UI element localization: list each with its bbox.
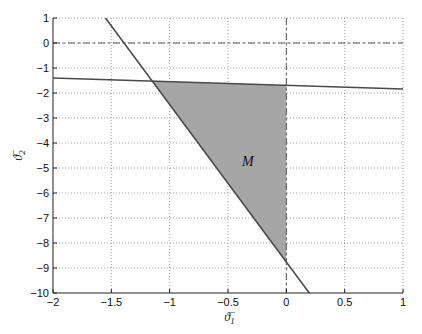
x-axis-label: ϑ1− [224, 307, 235, 326]
x-tick-label: 0 [283, 296, 289, 308]
y-axis-label: ϑ2− [8, 149, 27, 160]
y-tick-label: −1 [36, 62, 49, 74]
y-tick-label: 1 [43, 12, 49, 24]
y-tick-label: −7 [36, 212, 49, 224]
x-tick-label: −1 [163, 296, 176, 308]
y-tick-label: −2 [36, 87, 49, 99]
y-tick-label: −8 [36, 237, 49, 249]
y-tick-label: 0 [43, 37, 49, 49]
x-tick-label: 0.5 [337, 296, 352, 308]
y-tick-label: −4 [36, 137, 49, 149]
x-axis-ticks: −2−1.5−1−0.500.51 [47, 289, 406, 308]
chart: −2−1.5−1−0.500.51 10−1−2−3−4−5−6−7−8−9−1… [0, 0, 422, 334]
y-tick-label: −3 [36, 112, 49, 124]
x-tick-label: 1 [400, 296, 406, 308]
y-tick-label: −10 [30, 287, 49, 299]
y-tick-label: −6 [36, 187, 49, 199]
y-tick-label: −9 [36, 262, 49, 274]
region-label-m: M [241, 154, 255, 169]
x-tick-label: −1.5 [100, 296, 122, 308]
y-tick-label: −5 [36, 162, 49, 174]
